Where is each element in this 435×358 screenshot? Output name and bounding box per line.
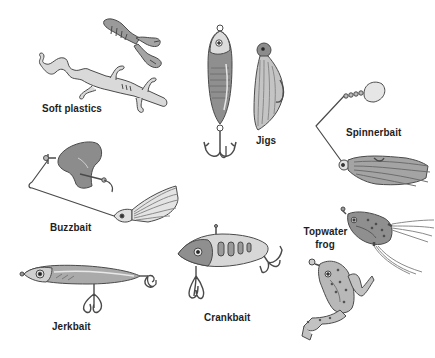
topwater-frog-label-line2: frog <box>304 238 347 251</box>
soft-plastics-label: Soft plastics <box>42 102 102 115</box>
spinnerbait-label: Spinnerbait <box>346 126 401 139</box>
buzzbait-label: Buzzbait <box>50 221 91 234</box>
jerkbait-icon <box>18 262 158 314</box>
crankbait-label: Crankbait <box>204 311 250 324</box>
jerkbait-label: Jerkbait <box>52 320 91 333</box>
jigs-label: Jigs <box>256 134 276 147</box>
fishing-lures-illustration: Soft plastics <box>0 0 435 358</box>
buzzbait-icon <box>18 138 180 226</box>
skirted-jig-icon <box>252 40 292 132</box>
topwater-frog-label-line1: Topwater <box>304 225 347 238</box>
legged-frog-icon <box>300 256 410 352</box>
crankbait-icon <box>176 224 286 304</box>
spoon-jig-icon <box>200 24 240 164</box>
